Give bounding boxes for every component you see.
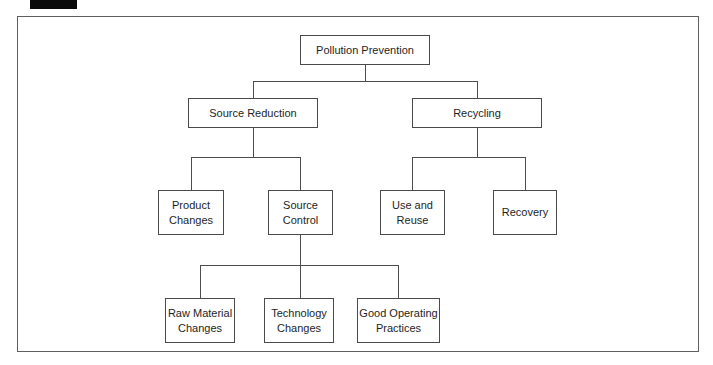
pollution-prevention-diagram: Pollution Prevention Source Reduction Re… <box>0 0 713 365</box>
connector-line <box>412 157 413 190</box>
node-pollution-prevention: Pollution Prevention <box>300 35 430 65</box>
connector-line <box>477 128 478 157</box>
node-raw-material-changes: Raw Material Changes <box>165 298 235 343</box>
connector-line <box>365 65 366 81</box>
connector-line <box>191 157 301 158</box>
node-label: Source Reduction <box>209 106 296 120</box>
node-label: Source Control <box>269 198 332 227</box>
node-technology-changes: Technology Changes <box>264 298 334 343</box>
connector-line <box>477 81 478 98</box>
node-source-control: Source Control <box>268 190 333 235</box>
node-recovery: Recovery <box>493 190 557 235</box>
connector-line <box>412 157 525 158</box>
connector-line <box>253 128 254 157</box>
connector-line <box>398 265 399 298</box>
node-label: Good Operating Practices <box>358 306 439 335</box>
node-use-and-reuse: Use and Reuse <box>380 190 445 235</box>
connector-line <box>300 235 301 298</box>
scan-artifact-mark <box>30 0 77 9</box>
node-source-reduction: Source Reduction <box>188 98 318 128</box>
node-label: Product Changes <box>159 198 223 227</box>
connector-line <box>200 265 201 298</box>
connector-line <box>300 157 301 190</box>
connector-line <box>253 81 254 98</box>
node-product-changes: Product Changes <box>158 190 224 235</box>
node-label: Technology Changes <box>265 306 333 335</box>
node-label: Pollution Prevention <box>316 43 414 57</box>
node-recycling: Recycling <box>412 98 542 128</box>
connector-line <box>525 157 526 190</box>
node-label: Recovery <box>502 205 548 219</box>
node-label: Raw Material Changes <box>166 306 234 335</box>
connector-line <box>253 81 478 82</box>
connector-line <box>200 265 399 266</box>
node-label: Recycling <box>453 106 501 120</box>
node-good-operating-practices: Good Operating Practices <box>357 298 440 343</box>
connector-line <box>191 157 192 190</box>
node-label: Use and Reuse <box>381 198 444 227</box>
